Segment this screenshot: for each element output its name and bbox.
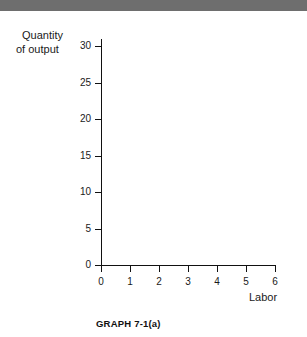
figure-page: Quantity of output 30 25 20 15 10 5 0 0 … [0,0,307,337]
y-axis-tick-label: 30 [71,40,91,51]
x-axis-tick [101,266,102,272]
x-axis-tick-label: 3 [180,276,196,287]
y-axis-tick [95,46,101,47]
figure-caption: GRAPH 7-1(a) [96,318,161,329]
x-axis-tick [217,266,218,272]
y-axis-tick-label: 0 [71,259,91,270]
x-axis-tick-label: 1 [122,276,138,287]
y-axis-tick-label: 10 [71,186,91,197]
x-axis-tick-label: 4 [209,276,225,287]
y-axis-tick [95,156,101,157]
x-axis-tick [188,266,189,272]
x-axis-title: Labor [249,291,277,303]
y-axis-tick-label: 20 [71,113,91,124]
chart-figure: Quantity of output 30 25 20 15 10 5 0 0 … [0,11,307,337]
y-axis-line [101,39,102,266]
y-axis-title-line2: of output [16,42,63,56]
y-axis-tick [95,119,101,120]
y-axis-tick-label: 15 [71,150,91,161]
y-axis-title-line1: Quantity [22,28,63,42]
x-axis-tick [130,266,131,272]
y-axis-tick-label: 5 [71,223,91,234]
x-axis-tick-label: 5 [238,276,254,287]
x-axis-tick [246,266,247,272]
y-axis-tick [95,192,101,193]
y-axis-title: Quantity of output [16,28,63,56]
x-axis-tick [159,266,160,272]
x-axis-tick [275,266,276,272]
x-axis-tick-label: 0 [93,276,109,287]
x-axis-tick-label: 2 [151,276,167,287]
plot-area [102,39,276,265]
y-axis-tick [95,229,101,230]
page-header-band [0,0,307,11]
y-axis-tick [95,83,101,84]
y-axis-tick-label: 25 [71,77,91,88]
x-axis-tick-label: 6 [267,276,283,287]
